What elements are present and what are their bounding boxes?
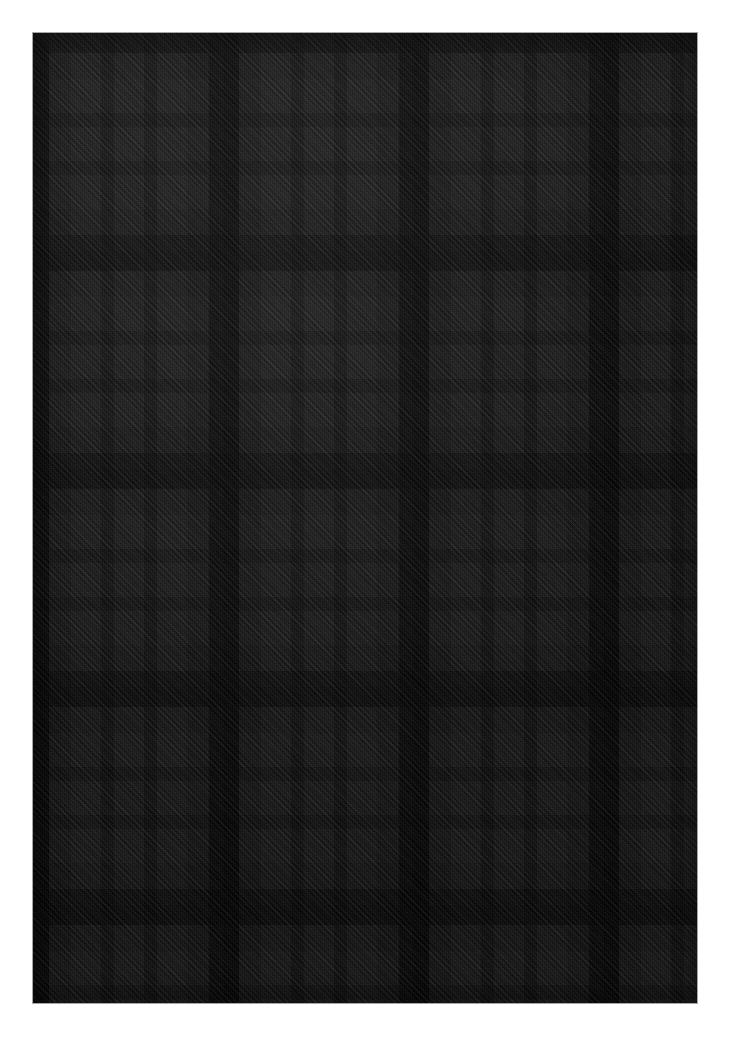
edge-shadow <box>33 33 697 1003</box>
tartan-fabric-swatch <box>33 33 697 1003</box>
image-canvas <box>0 0 729 1039</box>
